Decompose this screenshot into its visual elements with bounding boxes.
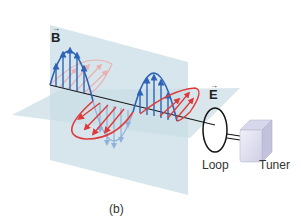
tuner-label: Tuner	[259, 158, 290, 172]
electric-field-label: → E	[209, 87, 218, 102]
vector-arrow-icon: →	[52, 24, 60, 33]
magnetic-field-label: → B	[51, 30, 60, 45]
loop-label: Loop	[202, 158, 229, 172]
figure-caption: (b)	[109, 202, 124, 216]
loop-lead	[227, 134, 240, 136]
vector-arrow-icon: →	[210, 81, 218, 90]
loop-antenna	[203, 108, 227, 152]
tuner-box	[240, 120, 272, 162]
em-wave-diagram	[0, 0, 301, 221]
